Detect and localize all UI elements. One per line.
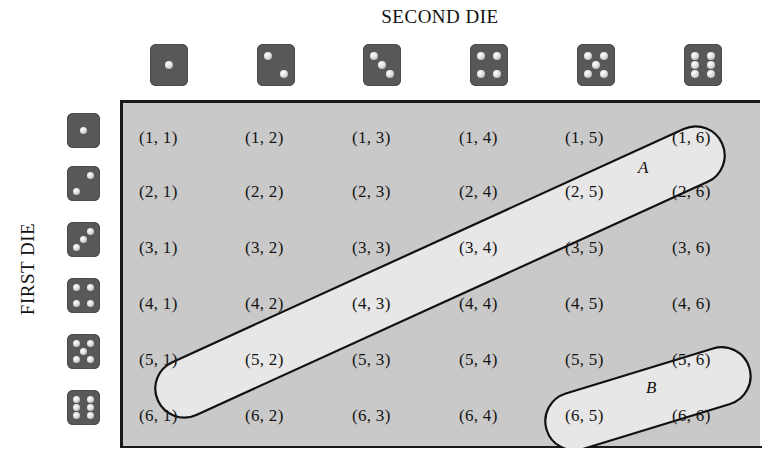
event-a-label: A xyxy=(638,158,648,178)
first-die-face-2 xyxy=(67,166,100,201)
cell-1-1: (1, 1) xyxy=(139,128,178,148)
pip xyxy=(73,412,80,419)
pip xyxy=(80,127,87,134)
cell-3-5: (3, 5) xyxy=(565,238,604,258)
pip xyxy=(80,236,87,243)
cell-5-4: (5, 4) xyxy=(459,350,498,370)
pip xyxy=(80,348,87,355)
pip xyxy=(280,70,288,78)
cell-1-2: (1, 2) xyxy=(245,128,284,148)
pip xyxy=(87,412,94,419)
cell-2-6: (2, 6) xyxy=(672,182,711,202)
cell-4-1: (4, 1) xyxy=(139,294,178,314)
pip xyxy=(600,52,608,60)
cell-5-5: (5, 5) xyxy=(565,350,604,370)
pip xyxy=(378,61,386,69)
cell-3-1: (3, 1) xyxy=(139,238,178,258)
pip xyxy=(87,356,94,363)
cell-2-2: (2, 2) xyxy=(245,182,284,202)
pip xyxy=(264,52,272,60)
cell-2-5: (2, 5) xyxy=(565,182,604,202)
pip xyxy=(691,70,699,78)
pip xyxy=(73,300,80,307)
first-die-face-4 xyxy=(67,278,100,313)
pip xyxy=(73,356,80,363)
first-die-face-1 xyxy=(67,113,100,148)
pip xyxy=(87,340,94,347)
pip xyxy=(87,172,94,179)
cell-3-4: (3, 4) xyxy=(459,238,498,258)
cell-6-3: (6, 3) xyxy=(352,406,391,426)
cell-3-3: (3, 3) xyxy=(352,238,391,258)
second-die-face-3 xyxy=(363,44,401,86)
cell-4-6: (4, 6) xyxy=(672,294,711,314)
pip xyxy=(493,52,501,60)
second-die-face-6 xyxy=(684,44,722,86)
pip xyxy=(493,70,501,78)
first-die-face-3 xyxy=(67,222,100,257)
pip xyxy=(707,61,715,69)
pip xyxy=(87,284,94,291)
cell-5-2: (5, 2) xyxy=(245,350,284,370)
cell-5-1: (5, 1) xyxy=(139,350,178,370)
pip xyxy=(165,61,173,69)
pip xyxy=(600,70,608,78)
pip xyxy=(87,404,94,411)
cell-1-4: (1, 4) xyxy=(459,128,498,148)
cell-3-2: (3, 2) xyxy=(245,238,284,258)
cell-6-2: (6, 2) xyxy=(245,406,284,426)
cell-6-4: (6, 4) xyxy=(459,406,498,426)
sample-space-grid xyxy=(120,100,760,448)
pip xyxy=(73,340,80,347)
pip xyxy=(477,70,485,78)
cell-5-6: (5, 6) xyxy=(672,350,711,370)
pip xyxy=(691,61,699,69)
cell-3-6: (3, 6) xyxy=(672,238,711,258)
pip xyxy=(73,244,80,251)
pip xyxy=(691,52,699,60)
cell-2-1: (2, 1) xyxy=(139,182,178,202)
first-die-title: FIRST DIE xyxy=(17,189,39,349)
pip xyxy=(73,284,80,291)
cell-1-5: (1, 5) xyxy=(565,128,604,148)
second-die-face-2 xyxy=(257,44,295,86)
first-die-face-6 xyxy=(67,390,100,425)
first-die-face-5 xyxy=(67,334,100,369)
pip xyxy=(386,70,394,78)
event-b-label: B xyxy=(646,378,656,398)
pip xyxy=(87,228,94,235)
second-die-face-1 xyxy=(150,44,188,86)
cell-4-2: (4, 2) xyxy=(245,294,284,314)
pip xyxy=(707,70,715,78)
pip xyxy=(87,300,94,307)
pip xyxy=(584,70,592,78)
cell-1-3: (1, 3) xyxy=(352,128,391,148)
pip xyxy=(73,396,80,403)
cell-4-3: (4, 3) xyxy=(352,294,391,314)
pip xyxy=(73,404,80,411)
pip xyxy=(707,52,715,60)
cell-6-1: (6, 1) xyxy=(139,406,178,426)
cell-1-6: (1, 6) xyxy=(672,128,711,148)
cell-4-5: (4, 5) xyxy=(565,294,604,314)
cell-6-6: (6, 6) xyxy=(672,406,711,426)
cell-2-4: (2, 4) xyxy=(459,182,498,202)
cell-4-4: (4, 4) xyxy=(459,294,498,314)
second-die-face-4 xyxy=(470,44,508,86)
second-die-face-5 xyxy=(577,44,615,86)
pip xyxy=(477,52,485,60)
pip xyxy=(87,396,94,403)
pip xyxy=(370,52,378,60)
pip xyxy=(73,188,80,195)
cell-5-3: (5, 3) xyxy=(352,350,391,370)
grid-bottom-border xyxy=(120,446,762,448)
pip xyxy=(584,52,592,60)
cell-6-5: (6, 5) xyxy=(565,406,604,426)
cell-2-3: (2, 3) xyxy=(352,182,391,202)
second-die-title: SECOND DIE xyxy=(120,6,760,28)
pip xyxy=(592,61,600,69)
